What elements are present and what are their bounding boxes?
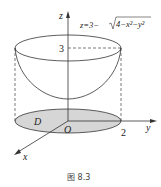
equation-radicand: 4−x²−y² bbox=[116, 19, 145, 29]
radius-label: 2 bbox=[121, 127, 126, 138]
z-height-label: 3 bbox=[59, 43, 64, 54]
figure-caption: 图 8.3 bbox=[67, 173, 90, 182]
y-axis-arrow-icon bbox=[150, 119, 157, 123]
x-axis-label: x bbox=[22, 151, 28, 162]
origin-label: O bbox=[64, 124, 71, 135]
y-axis-label: y bbox=[145, 122, 151, 133]
region-d-label: D bbox=[33, 116, 42, 127]
z-axis-label: z bbox=[58, 10, 63, 21]
z-axis-arrow-icon bbox=[66, 11, 70, 18]
hemisphere-diagram: z z=3− 4−x²−y² 3 D O 2 y x 图 8.3 bbox=[0, 0, 161, 187]
x-axis-arrow-icon bbox=[14, 149, 21, 155]
equation-prefix: z=3− bbox=[79, 20, 99, 30]
